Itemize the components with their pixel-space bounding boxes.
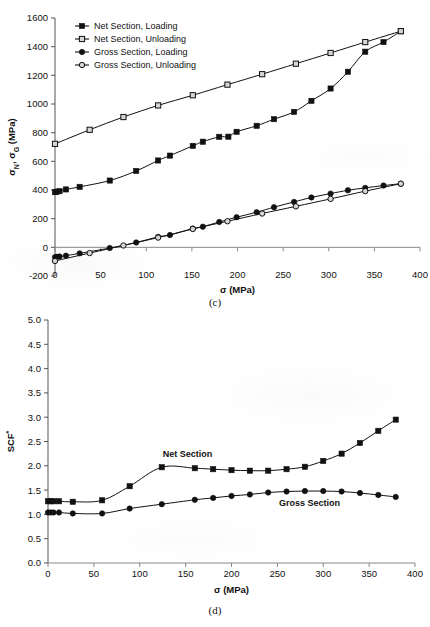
data-point-marker [79, 62, 84, 67]
data-point-marker [107, 178, 112, 183]
y-tick-label: 2.5 [28, 436, 41, 447]
data-point-marker [57, 254, 62, 259]
y-tick-label: 2.0 [28, 460, 41, 471]
legend-item-label: Gross Section, Loading [94, 47, 188, 57]
y-tick-label: 5.0 [28, 314, 41, 325]
data-point-marker [229, 493, 234, 498]
data-point-marker [156, 103, 161, 108]
data-point-marker [328, 86, 333, 91]
x-tick-label: 300 [321, 269, 337, 280]
data-point-marker [328, 191, 333, 196]
data-point-marker [398, 181, 403, 186]
data-point-marker [363, 188, 368, 193]
data-point-marker [100, 498, 105, 503]
legend-item-4: Gross Section, Unloading [75, 60, 196, 70]
data-point-marker [51, 510, 56, 515]
x-tick-label: 250 [269, 568, 285, 579]
data-point-marker [271, 205, 276, 210]
data-point-marker [211, 467, 216, 472]
data-point-marker [363, 39, 368, 44]
y-tick-label: 800 [32, 127, 48, 138]
y-title-text: SCF [5, 433, 16, 452]
data-point-marker [87, 127, 92, 132]
y-tick-label: 1.0 [28, 509, 41, 520]
data-point-marker [210, 495, 215, 500]
chart-root: -200020040060080010001200140016000501001… [6, 12, 428, 295]
data-point-marker [190, 226, 195, 231]
data-point-marker [284, 467, 289, 472]
data-point-marker [247, 492, 252, 497]
data-point-marker [127, 506, 132, 511]
y-title-units: (MPa) [6, 118, 17, 147]
y-axis-title: σN, σG (MPa) [6, 118, 20, 175]
data-point-marker [70, 511, 75, 516]
x-tick-label: 400 [407, 568, 423, 579]
data-point-marker [284, 489, 289, 494]
data-point-marker [302, 488, 307, 493]
legend-item-label: Gross Section, Unloading [94, 60, 196, 70]
y-axis-title: SCF* [5, 430, 17, 452]
x-tick-label: 150 [178, 568, 194, 579]
data-point-marker [259, 211, 264, 216]
data-point-marker [200, 139, 205, 144]
data-point-marker [167, 153, 172, 158]
data-point-marker [52, 141, 57, 146]
data-point-marker [56, 510, 61, 515]
data-point-marker [363, 49, 368, 54]
y-tick-label: 1600 [27, 12, 48, 23]
data-point-marker [357, 440, 362, 445]
legend-item-2: Net Section, Unloading [75, 34, 186, 44]
x-tick-label: 350 [361, 568, 377, 579]
data-point-marker [345, 188, 350, 193]
figure-container: -200020040060080010001200140016000501001… [0, 0, 430, 627]
data-point-marker [217, 134, 222, 139]
y-tick-label: 0.5 [28, 533, 41, 544]
chart-svg-net-gross-stress: -200020040060080010001200140016000501001… [0, 0, 430, 300]
data-point-marker [159, 501, 164, 506]
y-tick-label: 600 [32, 156, 48, 167]
chart-annotation-2: Gross Section [279, 498, 340, 508]
chart-root: 0.00.51.01.52.02.53.03.54.04.55.00501001… [5, 314, 423, 595]
data-point-marker [260, 72, 265, 77]
data-point-marker [155, 235, 160, 240]
data-point-marker [192, 466, 197, 471]
series-gross-section-unloading [52, 181, 403, 264]
data-point-marker [225, 219, 230, 224]
data-point-marker [309, 195, 314, 200]
data-point-marker [234, 129, 239, 134]
data-point-marker [77, 184, 82, 189]
data-point-marker [254, 123, 259, 128]
y-title-superscript: * [5, 430, 12, 433]
x-tick-label: 100 [138, 269, 154, 280]
data-point-marker [376, 428, 381, 433]
x-tick-label: 0 [52, 269, 57, 280]
x-tick-label: 350 [366, 269, 382, 280]
y-tick-label: 3.0 [28, 412, 41, 423]
y-tick-label: 3.5 [28, 387, 41, 398]
data-point-marker [134, 168, 139, 173]
data-point-marker [293, 61, 298, 66]
data-point-marker [393, 417, 398, 422]
data-point-marker [57, 189, 62, 194]
data-point-marker [156, 158, 161, 163]
data-point-marker [87, 250, 92, 255]
x-axis-title: σ (MPa) [220, 284, 255, 295]
x-tick-label: 400 [412, 269, 428, 280]
x-tick-label: 250 [275, 269, 291, 280]
x-tick-label: 300 [315, 568, 331, 579]
data-point-marker [393, 494, 398, 499]
data-point-marker [79, 23, 84, 28]
data-point-marker [321, 488, 326, 493]
y-tick-label: 0.0 [28, 557, 41, 568]
chart-panel-d: 0.00.51.01.52.02.53.03.54.04.55.00501001… [0, 300, 430, 627]
panel-caption-d: (d) [0, 604, 430, 616]
series-gross-section [45, 488, 398, 516]
legend-item-3: Gross Section, Loading [75, 47, 188, 57]
x-tick-label: 200 [230, 269, 246, 280]
data-point-marker [271, 117, 276, 122]
data-point-marker [56, 499, 61, 504]
y-tick-label: 200 [32, 213, 48, 224]
data-point-marker [293, 204, 298, 209]
data-point-marker [339, 451, 344, 456]
x-tick-label: 0 [45, 568, 50, 579]
